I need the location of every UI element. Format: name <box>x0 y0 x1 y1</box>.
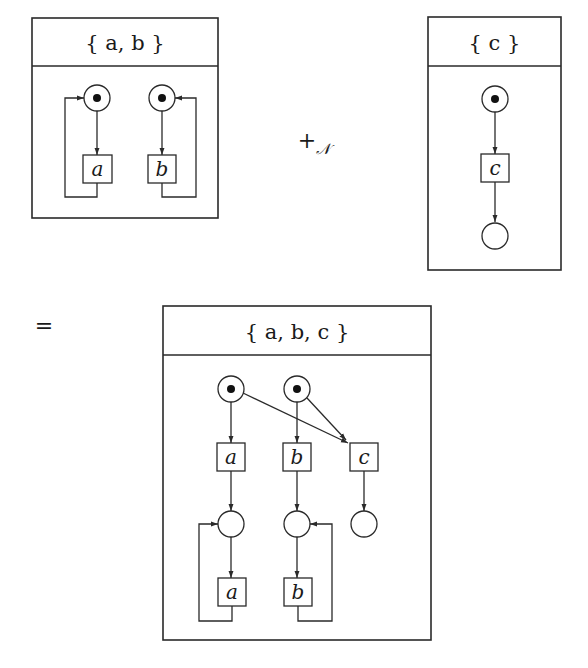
place-p3 <box>482 86 508 112</box>
place-q5 <box>351 511 377 537</box>
equals-sign: = <box>35 313 53 338</box>
svg-text:c: c <box>358 445 369 469</box>
transition-a-1: a <box>217 443 245 471</box>
composition-operator: + 𝒩 <box>298 128 335 158</box>
net-abc-title: { a, b, c } <box>245 320 350 344</box>
place-p4 <box>482 223 508 249</box>
svg-text:a: a <box>226 580 238 604</box>
place-q1 <box>218 376 244 402</box>
plus-sign: + <box>298 128 316 153</box>
petri-net-composition-diagram: { a, b } a b + 𝒩 { c } <box>0 0 588 668</box>
net-ab-title: { a, b } <box>85 31 164 55</box>
transition-b-1: b <box>283 443 311 471</box>
token-icon <box>227 385 235 393</box>
svg-text:b: b <box>156 157 169 181</box>
place-q3 <box>218 511 244 537</box>
svg-text:c: c <box>489 156 500 180</box>
place-q4 <box>284 511 310 537</box>
svg-text:b: b <box>292 580 305 604</box>
net-abc: { a, b, c } a b <box>163 306 431 640</box>
place-p1 <box>84 85 110 111</box>
net-c-title: { c } <box>469 31 521 55</box>
transition-c: c <box>481 154 509 182</box>
place-q2 <box>284 376 310 402</box>
net-ab: { a, b } a b <box>32 18 218 218</box>
svg-text:b: b <box>291 445 304 469</box>
plus-subscript-n: 𝒩 <box>316 140 335 158</box>
transition-b: b <box>148 155 176 183</box>
transition-a: a <box>83 155 112 183</box>
token-icon <box>93 94 101 102</box>
svg-text:a: a <box>92 157 104 181</box>
place-p2 <box>149 85 175 111</box>
transition-c: c <box>350 443 378 471</box>
svg-text:a: a <box>225 445 237 469</box>
net-c: { c } c <box>428 17 561 270</box>
transition-a-2: a <box>218 578 246 606</box>
token-icon <box>293 385 301 393</box>
token-icon <box>158 94 166 102</box>
transition-b-2: b <box>284 578 312 606</box>
token-icon <box>491 95 499 103</box>
